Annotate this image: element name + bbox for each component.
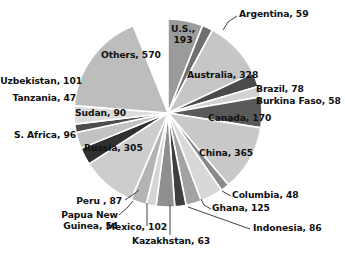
slice-label-columbia: Columbia, 48: [232, 190, 299, 201]
slice-label-papua-new-guinea: Papua NewGuinea, 54: [10, 210, 118, 231]
leader-line-argentina: [223, 16, 237, 30]
slice-label-us: U.S.,193: [166, 24, 200, 45]
slice-label-brazil: Brazil, 78: [256, 84, 304, 95]
slice-label-papua-line1: Papua New: [61, 209, 118, 220]
slice-label-australia: Australia, 328: [187, 70, 258, 81]
slice-label-s-africa: S. Africa, 96: [0, 130, 76, 141]
slice-label-russia: Russia, 305: [84, 143, 143, 154]
slice-label-papua-line2: Guinea, 54: [63, 220, 118, 231]
leader-line-columbia: [222, 191, 231, 196]
slice-label-china: China, 365: [199, 148, 253, 159]
pie-slice-others[interactable]: [74, 26, 168, 113]
slice-label-us-line2: 193: [174, 34, 193, 45]
slice-label-indonesia: Indonesia, 86: [253, 223, 322, 234]
slice-label-uzbekistan: Uzbekistan, 101: [0, 76, 82, 87]
slice-label-argentina: Argentina, 59: [239, 9, 308, 20]
slice-label-us-line1: U.S.,: [171, 23, 195, 34]
slice-label-kazakhstan: Kazakhstan, 63: [130, 236, 212, 247]
slice-label-canada: Canada, 170: [208, 113, 271, 124]
slice-label-tanzania: Tanzania, 47: [0, 93, 76, 104]
slice-label-sudan: Sudan, 90: [75, 108, 126, 119]
slice-label-others: Others, 570: [101, 50, 161, 61]
slice-label-peru: Peru , 87: [30, 196, 122, 207]
slice-label-burkina-faso: Burkina Faso, 58: [256, 96, 341, 107]
slice-label-ghana: Ghana, 125: [212, 203, 270, 214]
pie-chart: U.S.,193 Argentina, 59 Australia, 328 Br…: [0, 0, 345, 261]
